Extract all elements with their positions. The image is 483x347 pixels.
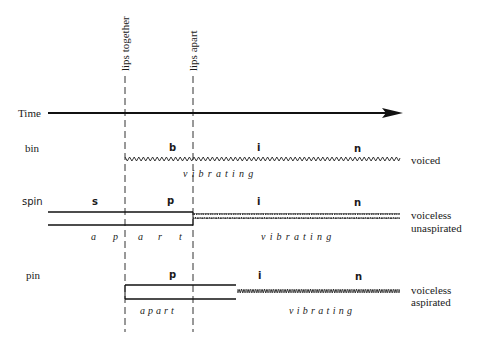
spin-vibration-wave	[193, 213, 400, 219]
segment-i: i	[257, 142, 260, 153]
segment-i: i	[257, 196, 260, 207]
segment-n: n	[354, 197, 361, 208]
segment-i: i	[258, 270, 261, 281]
state-letter: t	[179, 231, 186, 242]
lips-together-label: lips together	[119, 16, 131, 71]
segment-n: n	[354, 143, 361, 154]
classification-voiceless: voiceless	[411, 284, 451, 296]
state-vibrating: vibrating	[183, 168, 257, 179]
state-vibrating: vibrating	[289, 305, 355, 316]
state-letter: a	[138, 231, 147, 242]
lips-apart-label: lips apart	[187, 30, 199, 71]
word-label-spin: spin	[22, 196, 43, 208]
state-letter: p	[113, 231, 122, 242]
word-label-pin: pin	[26, 269, 40, 281]
pin-vibration-wave	[237, 289, 400, 295]
segment-b: b	[169, 142, 176, 153]
segment-p: p	[167, 195, 174, 206]
segment-p: p	[169, 269, 176, 280]
state-apart: apart	[140, 305, 177, 316]
state-vibrating: vibrating	[261, 231, 335, 242]
classification-voiceless: voiceless	[411, 209, 451, 221]
state-letter: a	[91, 231, 100, 242]
state-letter: r	[158, 231, 166, 242]
word-label-bin: bin	[25, 142, 39, 154]
time-axis-label: Time	[18, 107, 41, 119]
bin-vibration-wave	[125, 157, 400, 161]
classification-voiced: voiced	[411, 154, 440, 166]
classification-aspirated: aspirated	[411, 296, 451, 308]
classification-unaspirated: unaspirated	[411, 222, 462, 234]
segment-s: s	[92, 196, 98, 207]
segment-n: n	[355, 271, 362, 282]
